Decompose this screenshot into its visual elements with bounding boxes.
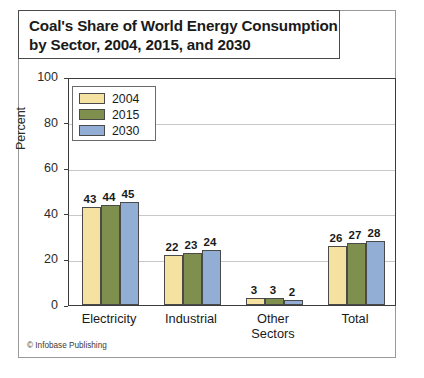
bar (101, 205, 120, 305)
bar (265, 298, 284, 305)
bar (120, 202, 139, 305)
legend-swatch-2004 (79, 93, 105, 104)
bar (202, 250, 221, 305)
bar-value-label: 45 (115, 188, 141, 200)
legend-item-2030: 2030 (79, 123, 155, 138)
bar-value-label: 24 (197, 236, 223, 248)
page-title: Coal's Share of World Energy Consumption… (29, 16, 339, 54)
y-tick-label: 80 (28, 116, 58, 130)
x-category-label: Total (305, 311, 405, 326)
legend-label-2004: 2004 (112, 92, 139, 106)
bar-value-label: 2 (279, 286, 305, 298)
legend-label-2015: 2015 (112, 108, 139, 122)
bar (284, 300, 303, 305)
legend-item-2015: 2015 (79, 107, 155, 122)
legend-item-2004: 2004 (79, 91, 155, 106)
bar-value-label: 28 (361, 227, 387, 239)
bar (164, 255, 183, 305)
y-axis-title: Percent (14, 107, 28, 150)
chart-title-box: Coal's Share of World Energy Consumption… (18, 10, 340, 59)
bar (366, 241, 385, 305)
bar (328, 246, 347, 305)
copyright-credit: © Infobase Publishing (27, 341, 107, 350)
gridline (69, 170, 395, 171)
legend-swatch-2015 (79, 109, 105, 120)
y-tick-label: 60 (28, 161, 58, 175)
y-tick-label: 0 (28, 298, 58, 312)
y-tick-label: 40 (28, 207, 58, 221)
y-tick-label: 100 (28, 70, 58, 84)
legend-swatch-2030 (79, 125, 105, 136)
chart-page: Coal's Share of World Energy Consumption… (0, 0, 424, 378)
y-tick-label: 20 (28, 252, 58, 266)
bar (347, 243, 366, 305)
bar (246, 298, 265, 305)
bar (183, 253, 202, 305)
legend: 2004 2015 2030 (72, 86, 156, 141)
legend-label-2030: 2030 (112, 124, 139, 138)
bar (82, 207, 101, 305)
